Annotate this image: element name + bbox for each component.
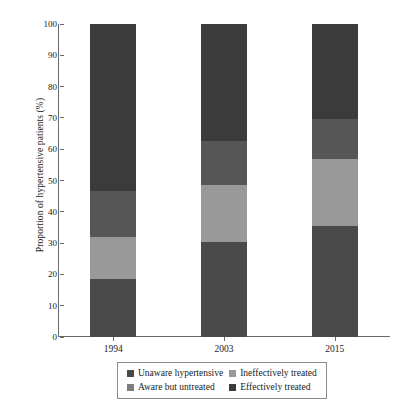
legend-cell: Effectively treated (226, 380, 320, 394)
y-tick-10: 10 (24, 301, 64, 311)
legend-swatch-icon (229, 384, 236, 391)
x-tick-label-2015: 2015 (300, 344, 370, 354)
bar-segment (312, 226, 358, 337)
bar-segment (201, 185, 247, 241)
bar-segment (90, 237, 136, 279)
legend-label: Ineffectively treated (240, 367, 317, 379)
legend-row: Aware but untreatedEffectively treated (124, 380, 320, 394)
chart-legend: Unaware hypertensiveIneffectively treate… (117, 362, 327, 399)
bar-segment (201, 141, 247, 185)
y-tick-label: 50 (48, 176, 57, 186)
bar-1994 (90, 24, 136, 337)
y-tick-mark (60, 149, 64, 150)
y-tick-label: 30 (48, 238, 57, 248)
legend-swatch-icon (127, 370, 134, 377)
y-tick-label: 10 (48, 301, 57, 311)
legend-label: Aware but untreated (138, 381, 215, 393)
bar-segment (201, 24, 247, 141)
legend-cell: Ineffectively treated (226, 366, 320, 380)
legend-item: Unaware hypertensive (127, 367, 223, 379)
y-tick-label: 70 (48, 113, 57, 123)
plot-area: 0102030405060708090100 199420032015 (58, 24, 390, 337)
y-tick-label: 100 (44, 19, 58, 29)
legend-item: Effectively treated (229, 381, 317, 393)
x-tick-mark (113, 337, 114, 341)
y-tick-30: 30 (24, 238, 64, 248)
y-tick-mark (60, 86, 64, 87)
bar-segment (90, 191, 136, 236)
y-tick-70: 70 (24, 113, 64, 123)
legend-label: Effectively treated (240, 381, 310, 393)
x-tick-label-1994: 1994 (78, 344, 148, 354)
chart-figure: Proportion of hypertensive patients (%) … (0, 0, 412, 411)
y-tick-mark (60, 180, 64, 181)
bar-2015 (312, 24, 358, 337)
y-tick-50: 50 (24, 176, 64, 186)
legend-item: Aware but untreated (127, 381, 223, 393)
legend-row: Unaware hypertensiveIneffectively treate… (124, 366, 320, 380)
x-tick-label-2003: 2003 (189, 344, 259, 354)
y-tick-mark (60, 305, 64, 306)
legend-cell: Aware but untreated (124, 380, 226, 394)
y-tick-label: 90 (48, 50, 57, 60)
y-tick-mark (60, 337, 64, 338)
bar-segment (312, 119, 358, 158)
y-tick-90: 90 (24, 50, 64, 60)
bar-2003 (201, 24, 247, 337)
bar-segment (312, 159, 358, 226)
y-tick-mark (60, 211, 64, 212)
y-tick-mark (60, 24, 64, 25)
y-tick-mark (60, 243, 64, 244)
y-tick-60: 60 (24, 144, 64, 154)
bar-segment (90, 24, 136, 191)
y-tick-20: 20 (24, 269, 64, 279)
legend-swatch-icon (229, 370, 236, 377)
legend-item: Ineffectively treated (229, 367, 317, 379)
bar-segment (90, 279, 136, 337)
bar-segment (312, 24, 358, 119)
y-tick-100: 100 (24, 19, 64, 29)
y-tick-label: 80 (48, 82, 57, 92)
legend-table: Unaware hypertensiveIneffectively treate… (124, 366, 320, 394)
bar-segment (201, 242, 247, 337)
y-tick-mark (60, 117, 64, 118)
y-tick-label: 60 (48, 144, 57, 154)
x-tick-mark (335, 337, 336, 341)
y-tick-mark (60, 55, 64, 56)
y-tick-label: 40 (48, 207, 57, 217)
legend-cell: Unaware hypertensive (124, 366, 226, 380)
y-tick-label: 20 (48, 269, 57, 279)
x-tick-mark (224, 337, 225, 341)
y-tick-40: 40 (24, 207, 64, 217)
legend-swatch-icon (127, 384, 134, 391)
y-tick-0: 0 (24, 332, 64, 342)
legend-label: Unaware hypertensive (138, 367, 223, 379)
y-tick-label: 0 (53, 332, 58, 342)
y-tick-mark (60, 274, 64, 275)
y-tick-80: 80 (24, 82, 64, 92)
